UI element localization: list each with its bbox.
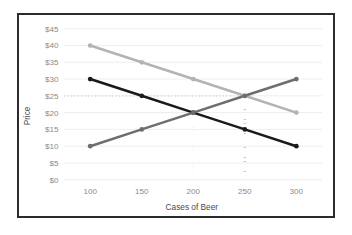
gridlines-group <box>64 29 322 180</box>
line-chart: $0$5$10$15$20$25$30$35$40$45 10015020025… <box>19 15 333 216</box>
y-tick-label: $5 <box>50 159 60 168</box>
data-point-marker <box>139 60 144 65</box>
x-tick-label: 100 <box>83 187 97 196</box>
x-tick-label: 250 <box>238 187 252 196</box>
equilibrium-guides-group <box>64 96 244 180</box>
y-axis-title: Price <box>23 106 32 125</box>
y-tick-label: $30 <box>45 75 59 84</box>
data-point-marker <box>294 144 299 149</box>
y-tick-label: $15 <box>45 125 59 134</box>
y-tick-label: $10 <box>45 142 59 151</box>
y-tick-label: $0 <box>50 176 60 185</box>
data-point-marker <box>88 144 93 149</box>
x-tick-label: 150 <box>135 187 149 196</box>
data-point-marker <box>139 93 144 98</box>
data-point-marker <box>88 43 93 48</box>
data-point-marker <box>139 127 144 132</box>
y-tick-label: $45 <box>45 25 59 34</box>
data-point-marker <box>191 77 196 82</box>
y-tick-label: $20 <box>45 109 59 118</box>
data-point-marker <box>242 93 247 98</box>
data-point-marker <box>88 77 93 82</box>
y-tick-label: $40 <box>45 41 59 50</box>
data-point-marker <box>191 110 196 115</box>
y-axis-tick-labels: $0$5$10$15$20$25$30$35$40$45 <box>45 25 59 185</box>
chart-frame: $0$5$10$15$20$25$30$35$40$45 10015020025… <box>17 13 335 218</box>
data-point-marker <box>294 110 299 115</box>
data-point-marker <box>294 77 299 82</box>
x-axis-tick-labels: 100150200250300 <box>83 187 303 196</box>
x-tick-label: 200 <box>187 187 201 196</box>
y-tick-label: $35 <box>45 58 59 67</box>
x-axis-title: Cases of Beer <box>166 203 219 212</box>
x-tick-label: 300 <box>290 187 304 196</box>
y-tick-label: $25 <box>45 92 59 101</box>
data-point-marker <box>242 127 247 132</box>
